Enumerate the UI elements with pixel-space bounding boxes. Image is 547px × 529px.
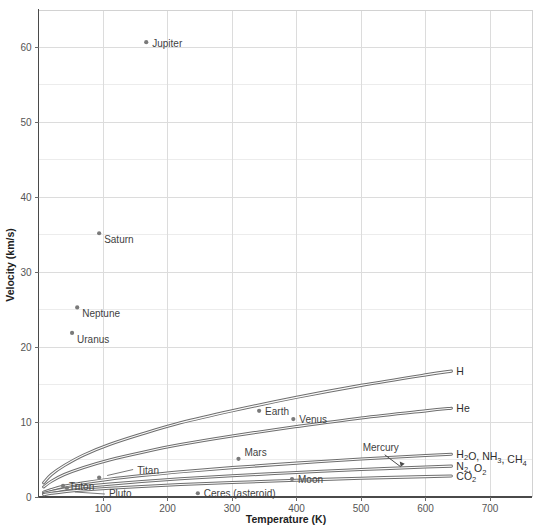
label-neptune: Neptune bbox=[82, 308, 120, 319]
chart-background bbox=[0, 0, 547, 529]
label-pluto: Pluto bbox=[109, 488, 132, 499]
datapoint-moon[interactable] bbox=[290, 477, 294, 481]
datapoint-neptune[interactable] bbox=[75, 305, 79, 309]
label-jupiter: Jupiter bbox=[152, 38, 183, 49]
x-tick-label-700: 700 bbox=[482, 503, 499, 514]
label-mars: Mars bbox=[244, 447, 266, 458]
x-tick-label-600: 600 bbox=[417, 503, 434, 514]
x-tick-label-200: 200 bbox=[159, 503, 176, 514]
datapoint-triton[interactable] bbox=[61, 484, 65, 488]
label-triton: Triton bbox=[69, 481, 94, 492]
label-venus: Venus bbox=[299, 414, 327, 425]
x-axis-title: Temperature (K) bbox=[246, 513, 326, 525]
y-tick-label-40: 40 bbox=[20, 192, 32, 203]
datapoint-uranus[interactable] bbox=[70, 331, 74, 335]
label-ceres-asteroid-: Ceres (asteroid) bbox=[204, 488, 276, 499]
label-moon: Moon bbox=[298, 474, 323, 485]
label-titan: Titan bbox=[137, 465, 159, 476]
velocity-temperature-chart: JupiterSaturnNeptuneUranusEarthVenusMars… bbox=[0, 0, 547, 529]
y-tick-label-0: 0 bbox=[26, 492, 32, 503]
curve-label-he: He bbox=[456, 402, 470, 414]
datapoint-saturn[interactable] bbox=[97, 231, 101, 235]
datapoint-mars[interactable] bbox=[236, 457, 240, 461]
x-tick-label-100: 100 bbox=[95, 503, 112, 514]
plot-canvas: JupiterSaturnNeptuneUranusEarthVenusMars… bbox=[0, 0, 547, 529]
datapoint-earth[interactable] bbox=[257, 409, 261, 413]
y-axis-title: Velocity (km/s) bbox=[4, 228, 16, 302]
label-earth: Earth bbox=[265, 406, 289, 417]
datapoint-titan[interactable] bbox=[97, 475, 101, 479]
y-tick-label-20: 20 bbox=[20, 342, 32, 353]
y-tick-label-50: 50 bbox=[20, 117, 32, 128]
y-tick-label-10: 10 bbox=[20, 417, 32, 428]
datapoint-venus[interactable] bbox=[291, 417, 295, 421]
x-tick-label-300: 300 bbox=[224, 503, 241, 514]
datapoint-ceres-asteroid-[interactable] bbox=[196, 491, 200, 495]
y-tick-label-30: 30 bbox=[20, 267, 32, 278]
datapoint-jupiter[interactable] bbox=[144, 40, 148, 44]
x-tick-label-500: 500 bbox=[353, 503, 370, 514]
label-uranus: Uranus bbox=[77, 334, 109, 345]
label-saturn: Saturn bbox=[104, 234, 133, 245]
curve-label-h2: H bbox=[456, 365, 464, 377]
label-mercury: Mercury bbox=[363, 442, 399, 453]
y-tick-label-60: 60 bbox=[20, 42, 32, 53]
